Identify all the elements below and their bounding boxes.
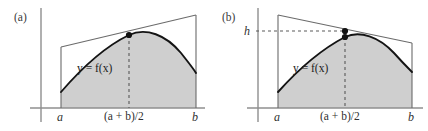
panel-a-x-label-midpoint: (a + b)/2 — [104, 110, 144, 122]
panel-a-x-label-left: a — [57, 110, 63, 125]
panel-b-top-line-dot — [342, 28, 348, 34]
panel-a — [30, 8, 205, 122]
panel-a-curve-label: y = f(x) — [77, 62, 112, 74]
panel-a-tangent-point-dot — [126, 32, 132, 38]
panel-b — [247, 8, 423, 122]
panel-b-height-label: h — [244, 24, 250, 39]
panel-b-x-label-midpoint: (a + b)/2 — [320, 110, 360, 122]
panel-b-label: (b) — [222, 11, 235, 23]
panel-a-x-label-right: b — [192, 110, 198, 125]
panel-b-x-label-left: a — [274, 110, 280, 125]
panel-b-curve-point-dot — [342, 34, 348, 40]
panel-b-x-label-right: b — [408, 110, 414, 125]
panel-a-label: (a) — [14, 11, 27, 23]
panel-b-curve-label: y = f(x) — [293, 62, 328, 74]
tangent-and-midpoint-rule-figure — [0, 0, 428, 131]
